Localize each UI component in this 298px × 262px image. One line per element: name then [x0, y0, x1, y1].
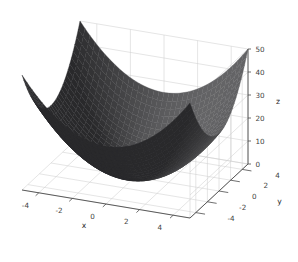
y-tick-label: 0: [252, 192, 257, 201]
surface-plot-canvas: -4-2024-4-202401020304050 xyz: [0, 0, 298, 262]
x-tick-label: -4: [22, 201, 30, 210]
x-tick-label: 0: [90, 212, 95, 221]
y-tick-label: -4: [227, 214, 235, 223]
z-tick-label: 50: [256, 45, 266, 54]
z-tick-label: 0: [256, 160, 261, 169]
y-axis-title: y: [277, 197, 282, 206]
z-axis-title: z: [276, 97, 280, 106]
z-tick-label: 10: [256, 137, 266, 146]
y-tick-label: 2: [264, 181, 269, 190]
x-axis-title: x: [82, 221, 87, 230]
x-tick-label: -2: [55, 206, 62, 215]
z-tick-label: 40: [256, 68, 266, 77]
matplotlib-figure: -4-2024-4-202401020304050 xyz: [0, 0, 298, 262]
y-tick-label: -2: [239, 203, 246, 212]
x-tick-label: 4: [158, 223, 163, 232]
z-tick-label: 20: [256, 114, 266, 123]
z-tick-label: 30: [256, 91, 266, 100]
x-tick-label: 2: [124, 217, 129, 226]
y-tick-label: 4: [275, 171, 280, 180]
